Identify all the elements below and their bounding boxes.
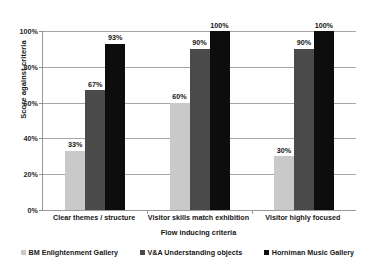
bar[interactable]: 90% [190,49,210,210]
tick-mark [39,31,43,32]
legend-label: BM Enlightenment Gallery [28,248,117,257]
y-axis-title: Score against criteria [19,20,28,140]
bar[interactable]: 93% [105,44,125,210]
bar-value-label: 30% [277,146,291,155]
bar-value-label: 60% [172,92,186,101]
y-tick-label: 100% [20,27,38,36]
y-tick-label: 20% [24,170,38,179]
x-category-label: Visitor highly focused [251,213,355,222]
legend-item[interactable]: BM Enlightenment Gallery [21,248,118,257]
bar-value-label: 93% [108,33,122,42]
tick-mark [39,67,43,68]
bar-value-label: 33% [68,140,82,149]
bar[interactable]: 30% [274,156,294,210]
bar-value-label: 100% [210,21,228,30]
tick-mark [39,138,43,139]
bar-value-label: 90% [192,38,206,47]
legend-item[interactable]: Horniman Music Gallery [264,248,354,257]
tick-mark [39,210,43,211]
x-axis-title: Flow inducing criteria [42,228,355,237]
bar-value-label: 67% [88,80,102,89]
bar-value-label: 100% [315,21,333,30]
gridline [43,31,356,32]
tick-mark [39,174,43,175]
bar[interactable]: 33% [65,151,85,210]
plot-area: 0%20%40%60%80%100% 33%67%93%60%90%100%30… [42,31,356,211]
tick-mark [39,103,43,104]
bar-chart: Score against criteria 0%20%40%60%80%100… [0,0,375,263]
legend-swatch-icon [264,250,269,255]
bar-value-label: 90% [297,38,311,47]
y-tick-label: 0% [28,206,38,215]
legend-swatch-icon [21,250,26,255]
legend-label: Horniman Music Gallery [272,248,354,257]
legend-item[interactable]: V&A Understanding objects [140,248,242,257]
bar[interactable]: 67% [85,90,105,210]
x-category-label: Clear themes / structure [42,213,146,222]
x-category-label: Visitor skills match exhibition [146,213,250,222]
legend: BM Enlightenment GalleryV&A Understandin… [0,248,375,257]
y-tick-label: 40% [24,134,38,143]
y-tick-label: 80% [24,62,38,71]
bar[interactable]: 100% [314,31,334,210]
legend-label: V&A Understanding objects [147,248,242,257]
bar[interactable]: 100% [210,31,230,210]
bar[interactable]: 60% [170,103,190,210]
y-tick-label: 60% [24,98,38,107]
bar[interactable]: 90% [294,49,314,210]
legend-swatch-icon [140,250,145,255]
